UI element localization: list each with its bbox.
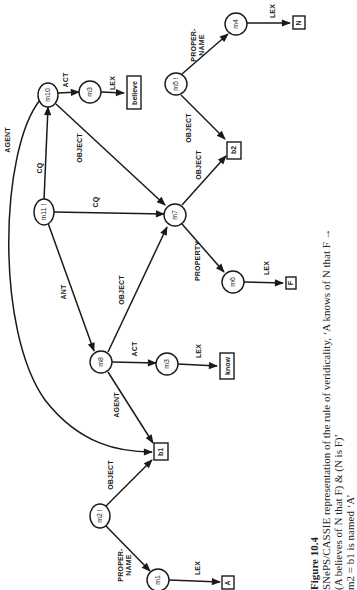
node-label: m6	[229, 277, 236, 287]
node-label: m11 !	[40, 203, 47, 220]
edge-label-agent: AGENT	[113, 392, 120, 418]
edge-label-lex: LEX	[109, 76, 116, 90]
node-label: m3	[163, 359, 170, 369]
edge-label-object: OBJECT	[107, 460, 114, 490]
edge-label-lex: LEX	[263, 261, 270, 275]
node-label: m7	[171, 210, 178, 220]
edge-label-object: OBJECT	[185, 113, 192, 143]
node-b1: b1	[154, 443, 168, 460]
node-label: m8	[97, 357, 104, 367]
edge-label-agent: AGENT	[4, 127, 11, 153]
node-m8: m8	[90, 351, 112, 373]
caption-title: Figure 10.4	[308, 537, 320, 590]
edge-label-cq: CQ	[36, 162, 44, 173]
edge-label-cq: CQ	[92, 196, 100, 207]
edge-label-object: OBJECT	[76, 133, 83, 163]
node-m3-top: m3	[79, 81, 101, 103]
node-label: m4	[232, 19, 239, 29]
node-label: F	[287, 280, 294, 285]
node-F: F	[286, 277, 296, 289]
edge-label-ant: ANT	[60, 284, 67, 300]
caption-line-1: SNePS/CASSIE representation of the rule …	[320, 228, 332, 590]
edge-label-proper-name: NAME	[125, 554, 132, 576]
node-m5: m5 !	[165, 73, 187, 95]
edge-label-act: ACT	[62, 72, 69, 88]
node-label: b1	[157, 448, 164, 456]
edge-label-proper-name: PROPER-	[117, 548, 124, 582]
node-believe: believe	[127, 76, 141, 109]
edge-cq-m11-m10	[44, 107, 48, 200]
edge-label-lex: LEX	[269, 4, 276, 18]
semantic-network-diagram: m10 m3 believe m5 ! m4 N m11 ! m7 b2 m6 …	[0, 0, 357, 590]
edge-act-m10-m3	[58, 92, 79, 93]
node-know: know	[220, 353, 234, 379]
edge-label-lex: LEX	[194, 561, 201, 575]
edge-label-object: OBJECT	[118, 275, 125, 305]
node-m3-mid: m3	[156, 353, 178, 375]
node-label: m1	[154, 575, 161, 585]
edge-act-m8-m3	[112, 362, 156, 363]
node-m11: m11 !	[34, 199, 54, 225]
edge-label-property: PROPERTY	[194, 241, 201, 281]
edge-object-m7-b2	[182, 156, 226, 205]
node-m4: m4	[225, 13, 247, 35]
edge-label-object: OBJECT	[195, 150, 202, 180]
node-label: believe	[131, 81, 138, 105]
node-m1: m1	[147, 569, 169, 590]
edge-object-m8-m7	[108, 227, 167, 352]
edge-label-proper-name: PROPER-	[190, 28, 197, 62]
edge-lex-F	[244, 282, 283, 283]
node-A: A	[222, 576, 234, 589]
node-label: m2 !	[96, 509, 103, 523]
edge-propername-m5-m4	[182, 34, 228, 74]
edge-lex-believe	[101, 92, 124, 93]
node-m6: m6	[222, 271, 244, 293]
node-label: A	[224, 580, 231, 585]
edge-cq-m11-m7	[54, 212, 164, 214]
node-N: N	[293, 16, 305, 29]
edge-label-proper-name: NAME	[198, 34, 205, 56]
edge-lex-A	[169, 580, 220, 582]
edge-object-m10-m7	[56, 104, 165, 205]
node-label: m3	[86, 87, 93, 97]
edge-ant-m11-m8	[48, 223, 94, 351]
node-label: b2	[230, 146, 237, 154]
node-m2: m2 !	[90, 504, 110, 528]
node-label: N	[295, 20, 302, 25]
edge-label-lex: LEX	[195, 344, 202, 358]
caption-line-3: m2 = b1 is named ‘A’	[344, 494, 356, 590]
node-m7: m7	[164, 204, 186, 226]
edge-property-m7-m6	[182, 224, 224, 272]
node-label: m5 !	[172, 77, 179, 91]
node-m10: m10	[38, 83, 58, 107]
figure-caption: Figure 10.4 SNePS/CASSIE representation …	[308, 228, 356, 590]
node-label: know	[224, 357, 231, 375]
edge-label-act: ACT	[131, 341, 138, 357]
edge-lex-know	[178, 364, 217, 366]
node-label: m10	[44, 88, 51, 102]
node-b2: b2	[227, 142, 241, 159]
